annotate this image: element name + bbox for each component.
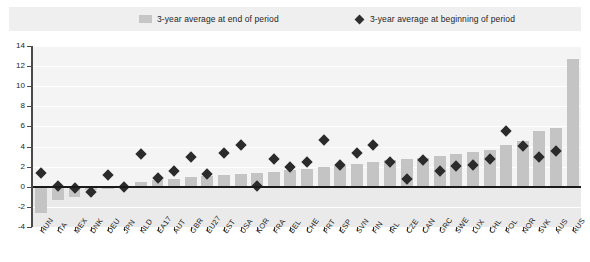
data-point-marker	[36, 167, 47, 178]
chart-column	[564, 46, 581, 227]
bar	[218, 175, 230, 187]
data-point-marker	[501, 126, 512, 137]
y-axis-tick-label: 6	[6, 121, 25, 130]
data-point-marker	[351, 147, 362, 158]
y-axis-tick	[27, 106, 32, 107]
bar	[268, 172, 280, 187]
chart-column	[265, 46, 282, 227]
y-axis-tick-label: 14	[6, 41, 25, 50]
zero-baseline	[33, 186, 581, 188]
y-axis-tick-label: 10	[6, 81, 25, 90]
bar	[550, 128, 562, 186]
chart-column	[415, 46, 432, 227]
chart-column	[481, 46, 498, 227]
data-point-marker	[185, 151, 196, 162]
chart-column	[116, 46, 133, 227]
bar	[35, 187, 47, 213]
data-point-marker	[235, 139, 246, 150]
chart-column	[515, 46, 532, 227]
chart-column	[432, 46, 449, 227]
data-point-marker	[168, 165, 179, 176]
data-point-marker	[301, 156, 312, 167]
chart-column	[498, 46, 515, 227]
bar	[301, 169, 313, 187]
y-axis-tick	[27, 86, 32, 87]
bar	[567, 59, 579, 187]
data-point-marker	[102, 169, 113, 180]
y-axis-line	[31, 46, 33, 227]
y-axis-tick-label: 8	[6, 101, 25, 110]
chart-figure: 3-year average at end of period 3-year a…	[0, 0, 590, 262]
chart-column	[149, 46, 166, 227]
chart-legend: 3-year average at end of period 3-year a…	[9, 7, 581, 31]
chart-column	[33, 46, 50, 227]
y-axis-tick-label: -4	[6, 222, 25, 231]
chart-column	[349, 46, 366, 227]
chart-column	[332, 46, 349, 227]
plot-area	[32, 46, 581, 227]
chart-column	[216, 46, 233, 227]
y-axis-tick	[27, 66, 32, 67]
y-axis-tick	[27, 126, 32, 127]
chart-column	[299, 46, 316, 227]
bar	[235, 174, 247, 187]
y-axis-tick-label: 0	[6, 182, 25, 191]
chart-column	[548, 46, 565, 227]
y-axis-tick	[27, 187, 32, 188]
chart-column	[232, 46, 249, 227]
legend-label-bar: 3-year average at end of period	[157, 14, 279, 24]
chart-column	[66, 46, 83, 227]
legend-item-marker: 3-year average at beginning of period	[354, 7, 515, 31]
x-axis-labels: HUNITAMEXDNKDEUJPNNLDEA17AUTGBREU27ESTUS…	[32, 230, 580, 262]
y-axis-tick-label: -2	[6, 202, 25, 211]
chart-column	[50, 46, 67, 227]
data-point-marker	[135, 148, 146, 159]
chart-column	[182, 46, 199, 227]
chart-column	[83, 46, 100, 227]
diamond-marker-icon	[355, 14, 365, 24]
chart-column	[282, 46, 299, 227]
chart-column	[199, 46, 216, 227]
y-axis-tick	[27, 227, 32, 228]
chart-column	[133, 46, 150, 227]
data-point-marker	[368, 139, 379, 150]
data-point-marker	[318, 134, 329, 145]
chart-column	[99, 46, 116, 227]
y-axis-tick-label: 4	[6, 142, 25, 151]
bar	[318, 167, 330, 187]
y-axis-tick-label: 12	[6, 61, 25, 70]
chart-column	[166, 46, 183, 227]
chart-column	[315, 46, 332, 227]
chart-column	[465, 46, 482, 227]
chart-column	[249, 46, 266, 227]
y-axis-tick	[27, 147, 32, 148]
y-axis-tick	[27, 46, 32, 47]
data-point-marker	[268, 153, 279, 164]
square-swatch-icon	[139, 15, 152, 23]
legend-label-marker: 3-year average at beginning of period	[370, 14, 515, 24]
legend-item-bar: 3-year average at end of period	[139, 7, 279, 31]
bar	[367, 162, 379, 187]
chart-column	[448, 46, 465, 227]
bar	[351, 164, 363, 187]
y-axis-tick	[27, 167, 32, 168]
y-axis-tick-label: 2	[6, 162, 25, 171]
chart-column	[365, 46, 382, 227]
y-axis-tick	[27, 207, 32, 208]
chart-column	[398, 46, 415, 227]
bar	[500, 145, 512, 187]
data-point-marker	[218, 147, 229, 158]
chart-column	[531, 46, 548, 227]
chart-column	[382, 46, 399, 227]
